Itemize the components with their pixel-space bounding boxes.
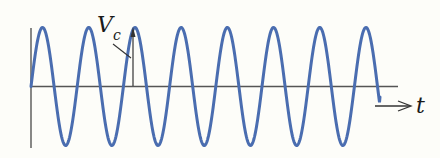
amplitude-subscript: c [113, 27, 121, 43]
time-arrow [375, 101, 411, 111]
sine-wave-diagram: V c t [0, 0, 440, 158]
time-axis-label: t [416, 93, 425, 118]
amplitude-arrow [131, 27, 136, 86]
